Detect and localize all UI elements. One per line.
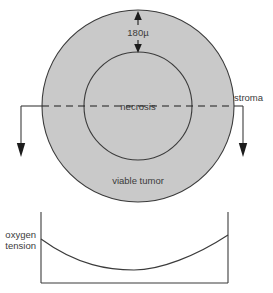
- viable-tumor-label: viable tumor: [112, 175, 164, 186]
- right-leader-arrowhead-icon: [239, 143, 247, 157]
- right-leader-arrow: [234, 106, 247, 157]
- tumor-oxygen-diagram: 180µ necrosis viable tumor stroma: [0, 0, 273, 293]
- figure-root: 180µ necrosis viable tumor stroma: [0, 0, 273, 293]
- oxygen-tension-curve: [41, 235, 228, 270]
- rim-thickness-label: 180µ: [127, 27, 149, 38]
- stroma-label: stroma: [234, 92, 264, 103]
- oxygen-tension-label-line2: tension: [5, 240, 36, 251]
- oxygen-tension-label-line1: oxygen: [5, 229, 36, 240]
- left-leader-arrowhead-icon: [17, 143, 25, 157]
- left-leader-arrow: [17, 106, 42, 157]
- oxygen-tension-plot: [41, 212, 228, 283]
